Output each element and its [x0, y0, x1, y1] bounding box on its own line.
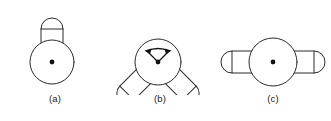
- figure-b: (b): [100, 0, 220, 121]
- figure-c-pivot-dot: [271, 60, 276, 65]
- figure-b-caption: (b): [100, 93, 220, 105]
- diagram-panel: (a): [0, 0, 331, 121]
- figure-a-caption: (a): [0, 93, 110, 105]
- figure-c-drawing: [215, 0, 331, 95]
- figure-b-pivot-dot: [156, 60, 161, 65]
- figure-a-pivot-dot: [50, 60, 55, 65]
- figure-c: (c): [215, 0, 331, 121]
- figure-a: (a): [0, 0, 110, 121]
- figure-b-drawing: [100, 0, 220, 95]
- figure-a-drawing: [0, 0, 110, 95]
- figure-c-caption: (c): [215, 93, 331, 105]
